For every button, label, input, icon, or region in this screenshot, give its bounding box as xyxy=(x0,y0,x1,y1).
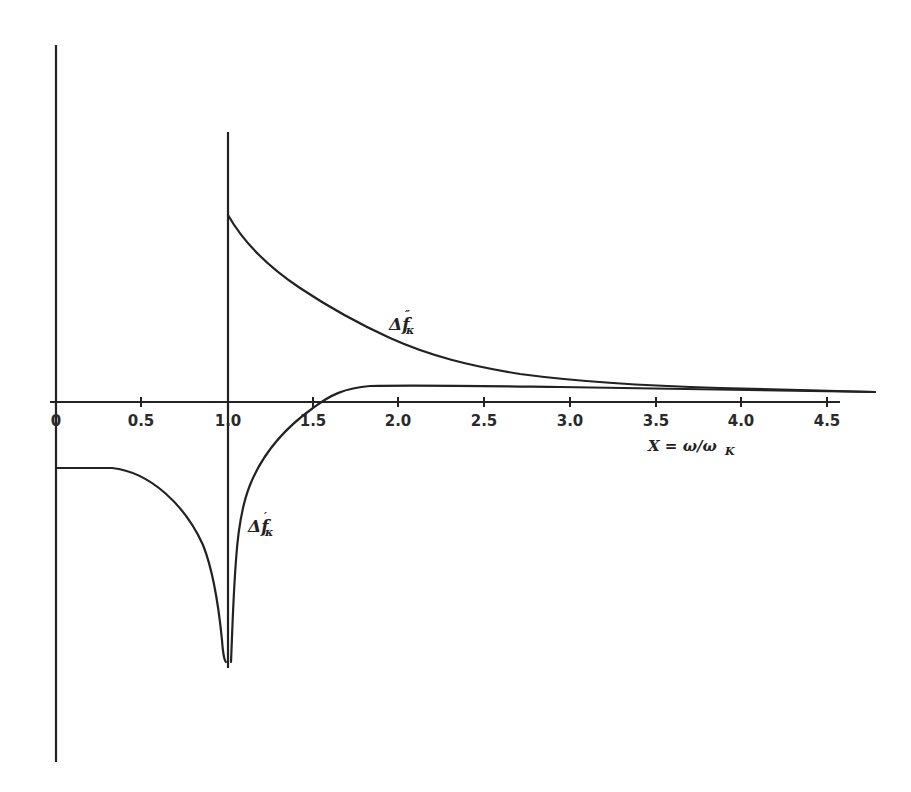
x-tick-labels: 0 0.5 1.0 1.5 2.0 2.5 3.0 3.5 4.0 4.5 xyxy=(51,412,841,430)
svg-text:κ: κ xyxy=(264,526,273,539)
svg-text:′: ′ xyxy=(264,510,267,523)
svg-text:κ: κ xyxy=(405,324,414,337)
label-delta-f-double-prime: Δf ″ κ xyxy=(388,308,414,337)
svg-text:″: ″ xyxy=(405,308,410,321)
tick-label: 4.0 xyxy=(728,412,755,430)
delta-f-double-prime-curve xyxy=(228,215,875,392)
tick-label: 1.0 xyxy=(215,412,242,430)
tick-label: 4.5 xyxy=(814,412,841,430)
tick-label: 2.0 xyxy=(385,412,412,430)
tick-label: 0 xyxy=(51,412,61,430)
tick-label: 0.5 xyxy=(128,412,155,430)
label-delta-f-prime: Δf ′ κ xyxy=(247,510,273,539)
tick-label: 3.5 xyxy=(643,412,670,430)
anomalous-scattering-chart: 0 0.5 1.0 1.5 2.0 2.5 3.0 3.5 4.0 4.5 Δf… xyxy=(0,0,911,792)
svg-text:K: K xyxy=(724,445,735,458)
tick-label: 2.5 xyxy=(471,412,498,430)
tick-label: 3.0 xyxy=(557,412,584,430)
x-axis-label: X = ω/ω K xyxy=(647,437,735,458)
svg-text:X = ω/ω: X = ω/ω xyxy=(647,437,717,455)
